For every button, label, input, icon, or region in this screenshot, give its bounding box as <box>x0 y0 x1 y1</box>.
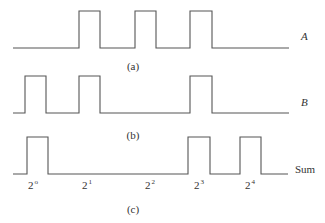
power-label-2-4: 24 <box>245 179 255 191</box>
caption-c: (c) <box>127 204 139 215</box>
signal-label-a: A <box>301 31 308 42</box>
power-label-2-0: 2o <box>28 179 38 191</box>
caption-b: (b) <box>127 130 140 141</box>
waveform-b <box>13 76 289 113</box>
waveform-sum <box>13 137 288 174</box>
power-label-2-2: 22 <box>145 179 155 191</box>
caption-a: (a) <box>127 61 139 72</box>
power-label-2-3: 23 <box>194 179 204 191</box>
timing-diagram <box>0 0 325 223</box>
waveform-a <box>13 11 289 48</box>
signal-label-sum: Sum <box>295 164 315 175</box>
power-label-2-1: 21 <box>82 179 92 191</box>
signal-label-b: B <box>301 97 308 108</box>
